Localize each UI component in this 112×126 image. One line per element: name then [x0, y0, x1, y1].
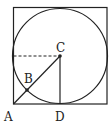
point-b: [25, 88, 29, 92]
geometry-diagram: A B C D: [0, 0, 112, 126]
label-a: A: [3, 110, 13, 124]
label-c: C: [56, 41, 65, 55]
label-b: B: [24, 72, 33, 86]
label-d: D: [55, 110, 65, 124]
